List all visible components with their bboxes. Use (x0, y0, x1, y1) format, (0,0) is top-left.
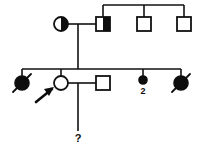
square-symbol (96, 76, 110, 90)
right-half-fill (103, 17, 110, 31)
individual-ii1-female-affected-deceased[interactable] (13, 74, 31, 92)
individual-ii3-male-unaffected[interactable] (96, 76, 110, 90)
pedigree-chart: 2 ? (0, 0, 201, 151)
individual-ii4-female-affected-group[interactable]: 2 (139, 76, 147, 96)
square-symbol (137, 17, 151, 31)
sibling-count-label: 2 (140, 86, 145, 96)
circle-symbol (54, 76, 68, 90)
circle-symbol (139, 76, 147, 84)
individual-iii1-unknown[interactable]: ? (75, 132, 82, 144)
proband-arrow-icon (36, 87, 54, 102)
pedigree-canvas: 2 ? (0, 0, 201, 151)
square-symbol (177, 17, 191, 31)
individual-i3-male-unaffected[interactable] (137, 17, 151, 31)
individual-ii5-female-affected-deceased[interactable] (172, 74, 190, 92)
unknown-status-label: ? (75, 132, 82, 144)
individual-ii2-female-proband[interactable] (54, 76, 68, 90)
individual-i2-male-half-filled[interactable] (96, 17, 110, 31)
individual-i1-female-half-filled[interactable] (54, 17, 68, 31)
individual-i4-male-unaffected[interactable] (177, 17, 191, 31)
